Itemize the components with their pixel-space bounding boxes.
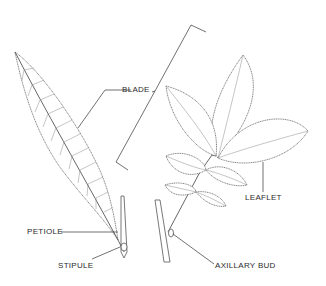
leaflet-left-upper [166, 86, 217, 156]
axillary-bud-shape [169, 229, 174, 237]
stipule-leader [92, 247, 120, 259]
label-axillary-bud: AXILLARY BUD [215, 262, 276, 270]
label-blade: BLADE [122, 86, 150, 94]
label-petiole: PETIOLE [27, 228, 63, 236]
label-leaflet: LEAFLET [245, 194, 282, 202]
blade-bracket-top [152, 25, 206, 92]
label-stipule: STIPULE [58, 262, 93, 270]
leaf-anatomy-diagram: BLADE LEAFLET PETIOLE STIPULE AXILLARY B… [0, 0, 326, 286]
stipule-shape [121, 243, 127, 251]
leaflet-left-lower [165, 183, 196, 195]
compound-leaf-twig [155, 200, 170, 262]
blade-bracket-bottom [116, 91, 155, 170]
compound-leaf [155, 55, 308, 262]
axillary-bud-leader [173, 234, 214, 264]
diagram-artwork [0, 0, 326, 286]
blade-leader-left [78, 90, 131, 128]
